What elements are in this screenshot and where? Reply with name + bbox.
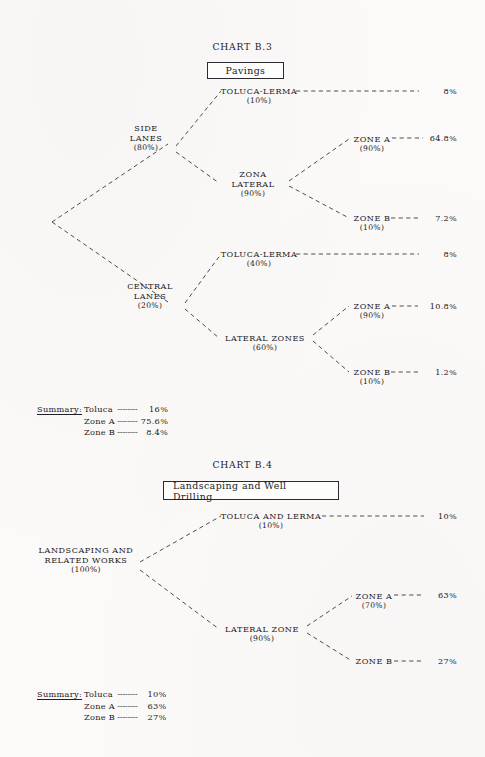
node-side-lanes-line2: LANES bbox=[130, 133, 163, 143]
value-b4-toluca: 10% bbox=[410, 511, 457, 521]
node-zone-b-side-name: ZONE B bbox=[353, 213, 390, 223]
node-central-lanes-line2: LANES bbox=[127, 291, 173, 301]
summary-b4-label: Summary: bbox=[37, 689, 82, 699]
node-central-lanes-pct: (20%) bbox=[127, 301, 173, 310]
node-b4-zone-a: ZONE A (70%) bbox=[356, 591, 393, 610]
edge-lateralzones-zonea bbox=[313, 306, 349, 335]
summary-b3-value-1: 75.6% bbox=[141, 416, 169, 428]
summary-b4-key-2: Zone B bbox=[84, 712, 117, 724]
node-central-lanes: CENTRAL LANES (20%) bbox=[127, 281, 173, 310]
summary-b4-dashes-1: -------- bbox=[117, 701, 141, 713]
node-zona-lateral: ZONA LATERAL (90%) bbox=[231, 169, 274, 198]
summary-b3-dashes-0: -------- bbox=[117, 404, 141, 416]
node-zone-b-central-pct: (10%) bbox=[353, 377, 390, 386]
node-toluca-and-lerma: TOLUCA AND LERMA (10%) bbox=[221, 511, 322, 530]
summary-b3-key-2: Zone B bbox=[84, 427, 117, 439]
node-zona-lateral-line1: ZONA bbox=[231, 169, 274, 179]
node-lateral-zone: LATERAL ZONE (90%) bbox=[225, 624, 299, 643]
node-zone-a-central: ZONE A (90%) bbox=[354, 301, 391, 320]
summary-b4-table: Toluca -------- 10% Zone A -------- 63% … bbox=[84, 689, 167, 724]
summary-b4-key-1: Zone A bbox=[84, 701, 117, 713]
node-toluca-lerma-side: TOLUCA-LERMA (10%) bbox=[221, 86, 298, 105]
value-toluca-central: 8% bbox=[408, 249, 457, 259]
summary-row: Toluca -------- 16% bbox=[84, 404, 168, 416]
node-b4-zone-b: ZONE B bbox=[355, 656, 392, 666]
edge-b4-lateralzone-zoneb bbox=[307, 633, 352, 661]
value-b4-zone-a: 63% bbox=[410, 590, 457, 600]
node-zone-a-central-pct: (90%) bbox=[354, 311, 391, 320]
edge-centrallanes-lateralzones bbox=[185, 309, 219, 338]
summary-b3-key-0: Toluca bbox=[84, 404, 117, 416]
node-zone-b-side: ZONE B (10%) bbox=[353, 213, 390, 232]
node-zone-a-central-name: ZONE A bbox=[354, 301, 391, 311]
chart-b4-caption: CHART B.4 bbox=[0, 460, 485, 471]
chart-b4-title: Landscaping and Well Drilling bbox=[173, 480, 329, 502]
node-toluca-lerma-side-name: TOLUCA-LERMA bbox=[221, 86, 298, 96]
summary-b3-key-1: Zone A bbox=[84, 416, 117, 428]
node-zone-b-side-pct: (10%) bbox=[353, 223, 390, 232]
node-landscaping-root-pct: (100%) bbox=[37, 565, 135, 574]
summary-b3-dashes-1: -------- bbox=[117, 416, 141, 428]
node-side-lanes-pct: (80%) bbox=[130, 143, 163, 152]
summary-row: Zone A -------- 63% bbox=[84, 701, 167, 713]
chart-b3-caption: CHART B.3 bbox=[0, 42, 485, 53]
edge-lateralzones-zoneb bbox=[313, 341, 349, 372]
summary-row: Zone B -------- 27% bbox=[84, 712, 167, 724]
node-zone-a-side: ZONE A (90%) bbox=[354, 134, 391, 153]
summary-row: Zone B -------- 8.4% bbox=[84, 427, 168, 439]
summary-b4-value-0: 10% bbox=[141, 689, 167, 701]
node-b4-zone-a-pct: (70%) bbox=[356, 601, 393, 610]
value-toluca-side: 8% bbox=[408, 86, 457, 96]
node-toluca-lerma-central-pct: (40%) bbox=[221, 259, 298, 268]
summary-row: Zone A -------- 75.6% bbox=[84, 416, 168, 428]
node-landscaping-root: LANDSCAPING AND RELATED WORKS (100%) bbox=[37, 545, 135, 574]
chart-b3-title-box: Pavings bbox=[207, 62, 284, 79]
node-side-lanes: SIDE LANES (80%) bbox=[130, 123, 163, 152]
node-zona-lateral-pct: (90%) bbox=[231, 189, 274, 198]
summary-b3-dashes-2: -------- bbox=[117, 427, 141, 439]
edge-b4-root-toluca bbox=[140, 516, 221, 562]
summary-b3-value-2: 8.4% bbox=[141, 427, 169, 439]
node-landscaping-root-line2: RELATED WORKS bbox=[37, 555, 135, 565]
node-lateral-zones-name: LATERAL ZONES bbox=[225, 333, 305, 343]
edge-zonalateral-zonea bbox=[289, 139, 349, 181]
node-toluca-lerma-central: TOLUCA-LERMA (40%) bbox=[221, 249, 298, 268]
summary-b4-key-0: Toluca bbox=[84, 689, 117, 701]
chart-b3-title: Pavings bbox=[226, 65, 266, 76]
node-lateral-zones-pct: (60%) bbox=[225, 343, 305, 352]
node-toluca-lerma-central-name: TOLUCA-LERMA bbox=[221, 249, 298, 259]
summary-b4-dashes-2: -------- bbox=[117, 712, 141, 724]
node-zona-lateral-line2: LATERAL bbox=[231, 179, 274, 189]
document-page: CHART B.3 Pavings SIDE LANES (80%) CENTR… bbox=[0, 0, 485, 757]
summary-row: Toluca -------- 10% bbox=[84, 689, 167, 701]
node-toluca-and-lerma-pct: (10%) bbox=[221, 521, 322, 530]
summary-chart-b3: Summary: Toluca -------- 16% Zone A ----… bbox=[37, 404, 168, 439]
value-zone-a-side: 64.8% bbox=[408, 133, 457, 143]
summary-chart-b4: Summary: Toluca -------- 10% Zone A ----… bbox=[37, 689, 167, 724]
edge-sidelanes-zonalateral bbox=[176, 152, 219, 183]
value-b4-zone-b: 27% bbox=[410, 656, 457, 666]
node-b4-zone-a-name: ZONE A bbox=[356, 591, 393, 601]
node-toluca-lerma-side-pct: (10%) bbox=[221, 96, 298, 105]
node-central-lanes-line1: CENTRAL bbox=[127, 281, 173, 291]
node-lateral-zones: LATERAL ZONES (60%) bbox=[225, 333, 305, 352]
chart-b4-title-box: Landscaping and Well Drilling bbox=[163, 481, 339, 500]
summary-b3-table: Toluca -------- 16% Zone A -------- 75.6… bbox=[84, 404, 168, 439]
edge-sidelanes-toluca bbox=[176, 91, 221, 146]
edge-centrallanes-toluca bbox=[185, 254, 221, 303]
node-side-lanes-line1: SIDE bbox=[130, 123, 163, 133]
node-zone-b-central: ZONE B (10%) bbox=[353, 367, 390, 386]
node-zone-a-side-pct: (90%) bbox=[354, 144, 391, 153]
value-zone-b-central: 1.2% bbox=[408, 367, 457, 377]
value-zone-b-side: 7.2% bbox=[408, 213, 457, 223]
node-lateral-zone-pct: (90%) bbox=[225, 634, 299, 643]
summary-b4-value-2: 27% bbox=[141, 712, 167, 724]
node-lateral-zone-name: LATERAL ZONE bbox=[225, 624, 299, 634]
edge-b4-lateralzone-zonea bbox=[307, 596, 352, 626]
node-landscaping-root-line1: LANDSCAPING AND bbox=[37, 545, 135, 555]
summary-b4-value-1: 63% bbox=[141, 701, 167, 713]
edge-root-side-lanes bbox=[52, 144, 168, 222]
node-toluca-and-lerma-name: TOLUCA AND LERMA bbox=[221, 511, 322, 521]
summary-b3-label: Summary: bbox=[37, 404, 82, 414]
edge-zonalateral-zoneb bbox=[289, 186, 349, 218]
